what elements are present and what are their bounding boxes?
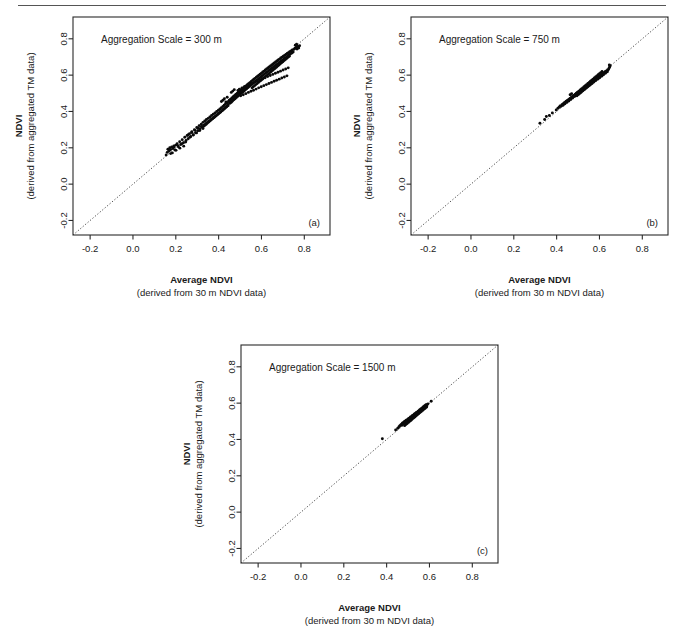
y-tick-label: 0.2 (397, 141, 408, 154)
x-tick-label: 0.8 (466, 571, 479, 582)
y-axis-subtitle: (derived from aggregated TM data) (363, 52, 374, 199)
figure-page: -0.20.00.20.40.60.8-0.20.00.20.40.60.8Ag… (0, 0, 680, 640)
x-axis-subtitle: (derived from 30 m NDVI data) (305, 615, 434, 626)
scatter-plot-c: -0.20.00.20.40.60.8-0.20.00.20.40.60.8Ag… (168, 336, 510, 636)
x-tick-label: 0.8 (298, 243, 311, 254)
y-tick-label: 0.6 (397, 69, 408, 82)
x-tick-label: 0.2 (507, 243, 520, 254)
x-axis-title: Average NDVI (508, 274, 570, 285)
scatter-panel-b: -0.20.00.20.40.60.8-0.20.00.20.40.60.8Ag… (338, 8, 680, 308)
x-tick-label: 0.4 (212, 243, 225, 254)
aggregation-scale-note: Aggregation Scale = 1500 m (269, 362, 395, 373)
aggregation-scale-note: Aggregation Scale = 750 m (439, 34, 560, 45)
scatter-plot-b: -0.20.00.20.40.60.8-0.20.00.20.40.60.8Ag… (338, 8, 680, 308)
y-tick-label: 0.2 (227, 469, 238, 482)
y-axis-title: NDVI (351, 115, 362, 138)
x-tick-label: 0.4 (550, 243, 563, 254)
x-axis-subtitle: (derived from 30 m NDVI data) (137, 287, 266, 298)
x-axis-title: Average NDVI (338, 602, 400, 613)
y-tick-label: 0.4 (397, 105, 408, 118)
y-tick-label: 0.8 (227, 360, 238, 373)
y-tick-label: -0.2 (397, 212, 408, 228)
x-tick-label: 0.2 (169, 243, 182, 254)
x-tick-label: -0.2 (82, 243, 98, 254)
x-tick-label: 0.0 (464, 243, 477, 254)
data-points (165, 43, 301, 157)
panel-letter: (a) (308, 217, 320, 228)
y-axis-title: NDVI (13, 115, 24, 138)
x-tick-label: 0.2 (337, 571, 350, 582)
one-to-one-reference-line (241, 345, 498, 563)
plot-frame (241, 345, 498, 563)
y-tick-label: 0.8 (397, 32, 408, 45)
data-points (538, 64, 611, 125)
y-tick-label: 0.6 (59, 69, 70, 82)
y-tick-label: 0.4 (59, 105, 70, 118)
panel-letter: (b) (646, 217, 658, 228)
y-tick-label: 0.0 (59, 178, 70, 191)
x-tick-label: 0.6 (423, 571, 436, 582)
scatter-panel-c: -0.20.00.20.40.60.8-0.20.00.20.40.60.8Ag… (168, 336, 510, 636)
x-tick-label: -0.2 (250, 571, 266, 582)
y-tick-label: 0.0 (227, 506, 238, 519)
scatter-panel-a: -0.20.00.20.40.60.8-0.20.00.20.40.60.8Ag… (0, 8, 342, 308)
x-tick-label: -0.2 (420, 243, 436, 254)
y-axis-subtitle: (derived from aggregated TM data) (25, 52, 36, 199)
y-tick-label: -0.2 (227, 540, 238, 556)
aggregation-scale-note: Aggregation Scale = 300 m (101, 34, 222, 45)
x-tick-label: 0.8 (636, 243, 649, 254)
x-tick-label: 0.0 (294, 571, 307, 582)
y-axis-title: NDVI (181, 443, 192, 466)
y-tick-label: 0.0 (397, 178, 408, 191)
x-tick-label: 0.4 (380, 571, 393, 582)
x-tick-label: 0.0 (126, 243, 139, 254)
y-tick-label: 0.4 (227, 433, 238, 446)
y-tick-label: 0.6 (227, 397, 238, 410)
scatter-plot-a: -0.20.00.20.40.60.8-0.20.00.20.40.60.8Ag… (0, 8, 342, 308)
page-top-rule (18, 5, 666, 6)
y-axis-subtitle: (derived from aggregated TM data) (193, 380, 204, 527)
data-points (381, 400, 433, 440)
plot-frame (411, 17, 668, 235)
x-tick-label: 0.6 (593, 243, 606, 254)
y-tick-label: 0.8 (59, 32, 70, 45)
y-tick-label: 0.2 (59, 141, 70, 154)
x-axis-subtitle: (derived from 30 m NDVI data) (475, 287, 604, 298)
x-axis-title: Average NDVI (170, 274, 232, 285)
panel-letter: (c) (477, 545, 488, 556)
x-tick-label: 0.6 (255, 243, 268, 254)
one-to-one-reference-line (411, 17, 668, 235)
y-tick-label: -0.2 (59, 212, 70, 228)
